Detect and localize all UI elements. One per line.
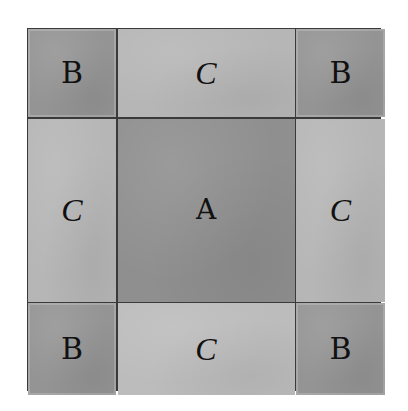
side-patch-bottom: C xyxy=(118,303,295,395)
corner-patch-top-left: B xyxy=(28,29,116,117)
center-patch: A xyxy=(118,119,295,302)
patch-label: B xyxy=(61,334,83,364)
side-patch-left: C xyxy=(28,119,116,302)
patch-label: B xyxy=(61,58,83,88)
patch-label: C xyxy=(195,57,216,89)
patch-label: C xyxy=(330,194,351,226)
side-patch-top: C xyxy=(118,29,295,117)
corner-patch-bottom-right: B xyxy=(296,303,385,395)
corner-patch-bottom-left: B xyxy=(28,303,116,395)
patch-label: C xyxy=(195,333,216,365)
corner-patch-top-right: B xyxy=(296,29,385,117)
patch-label: B xyxy=(329,58,351,88)
quilt-block-grid: B C B C A C B C B xyxy=(27,28,381,391)
patch-label: C xyxy=(61,194,82,226)
patch-label: A xyxy=(196,196,216,224)
side-patch-right: C xyxy=(296,119,385,302)
patch-label: B xyxy=(329,334,351,364)
